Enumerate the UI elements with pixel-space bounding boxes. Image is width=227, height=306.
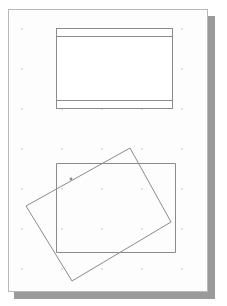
drawing-app-window [0, 0, 227, 306]
page-sheet[interactable] [8, 9, 208, 292]
dot-grid [9, 10, 207, 291]
drawing-canvas[interactable] [0, 0, 227, 306]
